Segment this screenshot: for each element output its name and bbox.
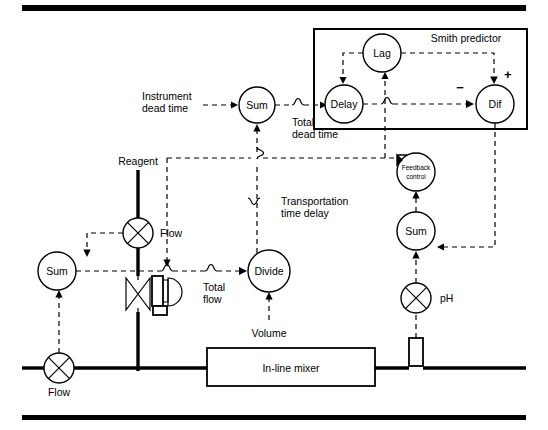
transportation-delay-label-line2: time delay bbox=[281, 207, 330, 219]
arrowhead-feedback-to-lag bbox=[381, 72, 388, 79]
feedback-control-label-line1: Feedback bbox=[402, 164, 431, 171]
reagent-label: Reagent bbox=[118, 155, 158, 167]
line-hop-total-dead-time-icon bbox=[292, 99, 304, 106]
arrowhead-reagent-flow-to-sum bbox=[83, 250, 90, 258]
figure-canvas: Smith predictor Instrument dead time Sum… bbox=[0, 0, 548, 430]
inline-probe-icon bbox=[409, 338, 423, 366]
total-dead-time-label-line2: dead time bbox=[292, 128, 338, 140]
feedback-control-node bbox=[397, 153, 435, 191]
in-line-mixer-label: In-line mixer bbox=[262, 362, 320, 374]
edge-reagent-flow-to-sum bbox=[87, 233, 123, 252]
actuator-base bbox=[153, 306, 167, 315]
feed-flow-label: Flow bbox=[48, 386, 71, 398]
delay-label: Delay bbox=[331, 98, 359, 110]
edge-lag-to-dif bbox=[401, 53, 494, 78]
total-flow-label-line1: Total bbox=[203, 281, 225, 293]
valve-yoke bbox=[152, 276, 163, 306]
arrowhead-dif-to-sum-ph bbox=[437, 243, 444, 250]
arrowhead-to-divide bbox=[239, 267, 247, 275]
smith-predictor-title: Smith predictor bbox=[431, 32, 502, 44]
arrowhead-instrument-to-sum bbox=[231, 101, 238, 108]
dif-minus-sign: − bbox=[456, 80, 464, 95]
dif-label: Dif bbox=[489, 98, 502, 110]
line-hop-delay-dif-icon bbox=[381, 98, 393, 105]
top-rule bbox=[22, 5, 526, 11]
ph-label: pH bbox=[440, 292, 453, 304]
transportation-delay-label-line1: Transportation bbox=[281, 195, 348, 207]
divide-label: Divide bbox=[254, 265, 283, 277]
arrowhead-transport-to-sum bbox=[253, 124, 260, 132]
dif-plus-sign: + bbox=[504, 67, 512, 82]
process-diagram: Smith predictor Instrument dead time Sum… bbox=[0, 0, 548, 430]
bottom-rule bbox=[22, 415, 526, 420]
arrowhead-feed-flow-to-sum bbox=[55, 290, 62, 298]
edge-dif-to-sum-ph bbox=[441, 123, 495, 247]
arrowhead-sum-ph-to-feedback bbox=[412, 191, 419, 199]
edge-lag-to-delay bbox=[343, 53, 363, 80]
diaphragm-actuator-icon bbox=[168, 278, 182, 306]
total-flow-label-line2: flow bbox=[203, 293, 222, 305]
arrowhead-ph-to-sum bbox=[412, 251, 419, 259]
reagent-flow-label: Flow bbox=[160, 227, 183, 239]
sum-dead-time-label: Sum bbox=[246, 99, 268, 111]
control-valve-icon bbox=[126, 278, 150, 310]
arrowhead-to-dif bbox=[466, 100, 474, 108]
sum-flow-label: Sum bbox=[46, 265, 68, 277]
arrowhead-lag-to-delay bbox=[339, 77, 346, 84]
total-dead-time-label-line1: Total bbox=[292, 116, 314, 128]
line-hop-total-flow-icon bbox=[205, 265, 217, 272]
instrument-dead-time-label-line2: dead time bbox=[142, 102, 188, 114]
volume-label: Volume bbox=[251, 327, 286, 339]
arrowhead-lag-to-dif bbox=[490, 77, 498, 85]
sum-ph-label: Sum bbox=[405, 225, 427, 237]
feedback-control-label-line2: control bbox=[406, 173, 426, 180]
transportation-delay-marker-icon bbox=[248, 198, 260, 205]
instrument-dead-time-label-line1: Instrument bbox=[142, 90, 192, 102]
arrowhead-volume-to-divide bbox=[265, 292, 272, 300]
lag-label: Lag bbox=[373, 47, 391, 59]
line-hop-transport-icon bbox=[257, 147, 264, 159]
